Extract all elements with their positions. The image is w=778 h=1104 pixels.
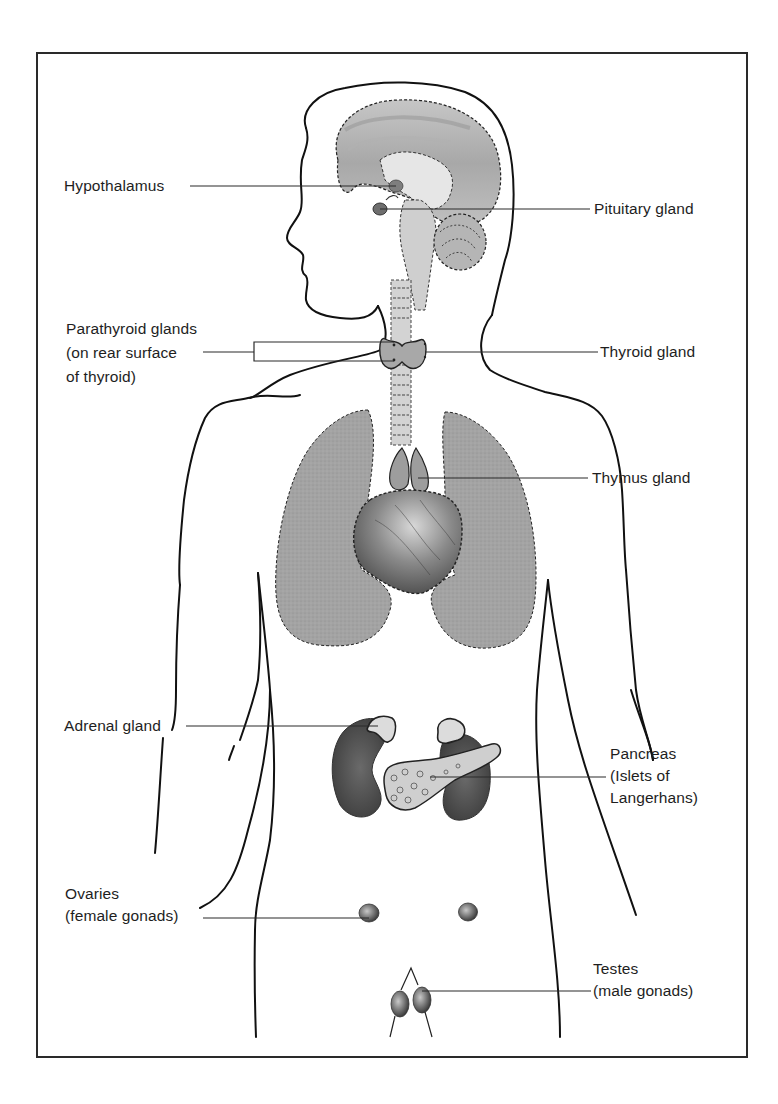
label-thyroid-gland: Thyroid gland <box>600 341 695 363</box>
label-testes: Testes (male gonads) <box>593 958 693 1002</box>
ovaries <box>359 903 478 922</box>
label-pituitary-gland: Pituitary gland <box>594 198 694 220</box>
brain <box>336 100 501 310</box>
label-thymus-gland: Thymus gland <box>592 467 691 489</box>
label-parathyroid-glands: Parathyroid glands (on rear surface of t… <box>66 317 197 389</box>
testes <box>390 968 432 1037</box>
label-pancreas: Pancreas (Islets of Langerhans) <box>610 743 698 809</box>
adrenal-glands <box>367 716 465 743</box>
label-hypothalamus: Hypothalamus <box>64 175 164 197</box>
label-adrenal-gland: Adrenal gland <box>64 715 161 737</box>
thymus <box>390 448 429 492</box>
endocrine-illustration <box>0 0 778 1104</box>
label-ovaries: Ovaries (female gonads) <box>65 883 179 927</box>
